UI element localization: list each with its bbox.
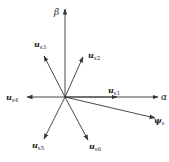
vector-u-s6 [65,97,88,140]
label-psi-s: ψs [154,115,165,126]
label-u-s3: us3 [34,39,47,50]
beta-label: β [53,7,59,17]
alpha-label: α [161,92,167,102]
space-vector-diagram: β α us1 us2 us3 us4 us5 us6 ψs [0,0,169,162]
label-u-s1: us1 [108,85,120,96]
label-u-s4: us4 [6,92,19,103]
label-u-s5: us5 [32,140,45,151]
vector-u-s3 [44,56,65,97]
vector-u-s2 [65,57,83,97]
vector-u-s5 [44,97,65,139]
label-u-s2: us2 [88,50,100,61]
label-u-s6: us6 [89,141,102,152]
vector-psi-s [65,97,155,118]
